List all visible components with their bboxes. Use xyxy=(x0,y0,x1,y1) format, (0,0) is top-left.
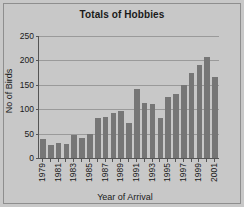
x-axis-tick-mark xyxy=(81,159,82,162)
bar xyxy=(40,139,46,158)
x-axis-tick-mark xyxy=(159,159,160,162)
bar-slot xyxy=(188,36,196,158)
x-axis-tick-mark xyxy=(152,159,153,162)
x-axis-tick-mark xyxy=(73,159,74,162)
bar-slot xyxy=(156,36,164,158)
y-axis-tick-label: 150 xyxy=(20,80,34,90)
bar xyxy=(150,104,156,158)
bar xyxy=(173,94,179,158)
x-axis-tick-mark xyxy=(97,159,98,162)
bars-container xyxy=(39,36,219,158)
bar xyxy=(126,123,132,158)
x-axis-tick-mark xyxy=(128,159,129,162)
x-axis-label-slot: 1985 xyxy=(85,163,93,191)
bar-slot xyxy=(62,36,70,158)
bar-slot xyxy=(196,36,204,158)
bar xyxy=(79,138,85,158)
x-axis-tick-mark xyxy=(167,159,168,162)
y-axis-tick-label: 200 xyxy=(20,55,34,65)
bar xyxy=(142,103,148,158)
x-axis-label-slot: 1995 xyxy=(163,163,171,191)
bar-chart-figure: Totals of Hobbies No of Birds 0501001502… xyxy=(0,0,244,207)
bar xyxy=(118,111,124,158)
bar-slot xyxy=(141,36,149,158)
x-axis-tick-mark xyxy=(144,159,145,162)
y-axis-tick-label: 50 xyxy=(25,129,34,139)
x-axis-tick-mark xyxy=(191,159,192,162)
bar-slot xyxy=(55,36,63,158)
bar xyxy=(134,89,140,158)
x-axis-tick-mark xyxy=(50,159,51,162)
x-axis-tick-mark xyxy=(105,159,106,162)
bar-slot xyxy=(180,36,188,158)
x-axis-tick-mark xyxy=(42,159,43,162)
x-axis-tick-mark xyxy=(65,159,66,162)
y-axis-label: No of Birds xyxy=(4,53,14,129)
x-axis-tick-mark xyxy=(136,159,137,162)
x-axis-tick-label: 2001 xyxy=(209,163,219,182)
x-axis-tick-labels: 1979198119831985198719891991199319951997… xyxy=(38,163,218,191)
bar-slot xyxy=(39,36,47,158)
y-axis-tick-label: 0 xyxy=(29,153,34,163)
x-axis-tick-mark xyxy=(214,159,215,162)
bar xyxy=(158,118,164,158)
bar xyxy=(181,85,187,158)
y-axis-tick-label: 250 xyxy=(20,31,34,41)
bar-slot xyxy=(47,36,55,158)
bar xyxy=(95,118,101,158)
x-axis-tick-mark xyxy=(183,159,184,162)
bar xyxy=(197,65,203,158)
x-axis-tick-mark xyxy=(206,159,207,162)
bar-slot xyxy=(172,36,180,158)
bar xyxy=(48,145,54,158)
bar-slot xyxy=(164,36,172,158)
x-axis-tick-mark xyxy=(175,159,176,162)
bar xyxy=(111,113,117,158)
bar-slot xyxy=(94,36,102,158)
y-axis-tick-label: 100 xyxy=(20,104,34,114)
x-axis-label-slot: 1991 xyxy=(132,163,140,191)
bar-slot xyxy=(203,36,211,158)
bar xyxy=(212,77,218,158)
bar-slot xyxy=(211,36,219,158)
bar-slot xyxy=(102,36,110,158)
x-axis-label-slot: 1989 xyxy=(116,163,124,191)
bar xyxy=(165,97,171,158)
bar xyxy=(87,134,93,158)
x-axis-label-slot: 1979 xyxy=(38,163,46,191)
x-axis-label-slot: 1999 xyxy=(195,163,203,191)
x-axis-label-slot: 1981 xyxy=(54,163,62,191)
x-axis-tick-mark xyxy=(198,159,199,162)
bar xyxy=(103,117,109,158)
bar xyxy=(56,143,62,158)
bar xyxy=(189,73,195,158)
x-axis-label-slot: 1997 xyxy=(179,163,187,191)
x-axis-label-slot: 1983 xyxy=(69,163,77,191)
bar-slot xyxy=(78,36,86,158)
bar-slot xyxy=(117,36,125,158)
x-axis-tick-mark xyxy=(112,159,113,162)
chart-title: Totals of Hobbies xyxy=(0,9,244,20)
bar-slot xyxy=(125,36,133,158)
x-axis-label-slot: 1993 xyxy=(148,163,156,191)
bar-slot xyxy=(133,36,141,158)
x-axis-label-slot: 2001 xyxy=(210,163,218,191)
bar-slot xyxy=(86,36,94,158)
plot-area: 050100150200250 xyxy=(38,36,219,159)
bar xyxy=(71,135,77,158)
x-axis-tick-mark xyxy=(89,159,90,162)
bar-slot xyxy=(149,36,157,158)
x-axis-tick-mark xyxy=(120,159,121,162)
bar-slot xyxy=(109,36,117,158)
bar xyxy=(204,57,210,158)
x-axis-tick-mark xyxy=(58,159,59,162)
x-axis-label: Year of Arrival xyxy=(30,192,220,202)
x-axis-label-slot: 1987 xyxy=(101,163,109,191)
bar-slot xyxy=(70,36,78,158)
bar xyxy=(64,144,70,158)
